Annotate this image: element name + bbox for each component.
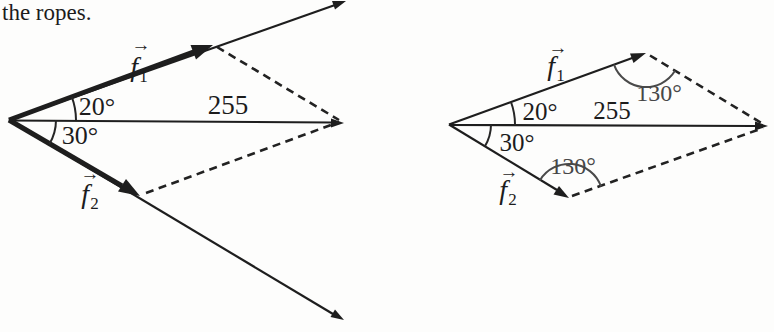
f2-vector-arrowhead-left: [118, 179, 140, 196]
caption-text: the ropes.: [2, 0, 91, 25]
angle-30-label-right: 30°: [500, 129, 535, 156]
resultant-vector-left: [9, 121, 333, 123]
f1-vector-arrowhead-left: [191, 45, 214, 60]
angle-arc-30-left: [49, 120, 56, 144]
left-diagram: the ropes. f1 → f2 → 20° 30° 255: [2, 0, 346, 320]
force-vector-figure: the ropes. f1 → f2 → 20° 30° 255 f1 → f2: [0, 0, 774, 332]
f1-vector-arrowhead-right: [630, 53, 646, 63]
right-diagram: f1 → f2 → 20° 30° 255 130° 130°: [449, 37, 768, 209]
resultant-vector-right: [449, 125, 755, 126]
f1-label-left: f1: [130, 51, 147, 86]
resultant-value-right: 255: [593, 97, 631, 124]
f2-vector-arrow-glyph-left: →: [81, 163, 100, 184]
f1-vector-arrow-glyph-left: →: [132, 34, 151, 55]
resultant-value-left: 255: [208, 90, 249, 120]
f2-rope-arrowhead-left: [331, 310, 345, 321]
interior-angle-bottom-label-right: 130°: [550, 153, 596, 179]
interior-angle-top-label-right: 130°: [636, 80, 682, 106]
f1-rope-arrowhead-left: [332, 1, 346, 10]
parallelogram-dashed-bottom-left: [146, 122, 339, 193]
f1-vector-arrow-glyph-right: →: [549, 37, 568, 58]
f2-vector-arrowhead-right: [554, 186, 570, 198]
angle-30-label-left: 30°: [62, 121, 98, 150]
angle-arc-20-left: [72, 97, 76, 120]
f2-vector-arrow-glyph-right: →: [500, 161, 519, 182]
angle-arc-20-right: [511, 102, 515, 125]
angle-20-label-left: 20°: [79, 92, 115, 121]
angle-arc-30-right: [485, 125, 491, 147]
angle-20-label-right: 20°: [523, 98, 558, 125]
